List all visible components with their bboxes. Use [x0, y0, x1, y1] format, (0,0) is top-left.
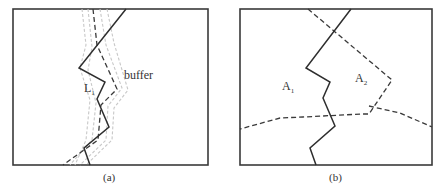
- area-boundary-a2: [240, 9, 392, 129]
- line-l1-b: [306, 9, 351, 165]
- area-boundary-right: [369, 106, 432, 127]
- buffer-label: buffer: [124, 68, 153, 82]
- line-l1-label: L1: [84, 81, 95, 97]
- panel-b-caption: (b): [329, 171, 342, 184]
- panel-a-caption: (a): [103, 171, 116, 184]
- panel-b: A1 A2 (b): [240, 9, 432, 184]
- area-a2-label: A2: [355, 71, 368, 87]
- area-a1-label: A1: [282, 79, 295, 95]
- figure-canvas: L1 buffer (a) A1 A2 (b): [0, 0, 441, 188]
- panel-a: L1 buffer (a): [13, 9, 208, 184]
